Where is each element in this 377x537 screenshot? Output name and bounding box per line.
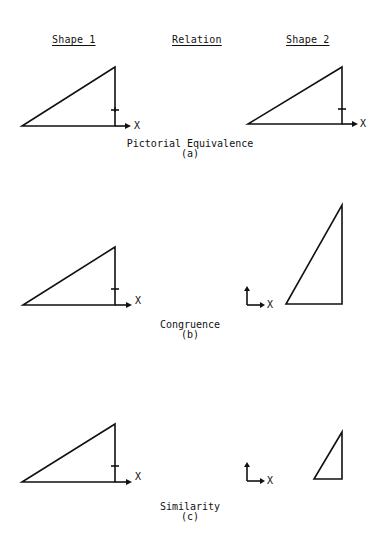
arrow-up-icon [244,462,250,467]
panel-c-shape-1-triangle [22,424,129,482]
axis-label-x: X [267,475,273,486]
panel-b-shape-1-triangle [23,247,129,305]
axis-label-x: X [267,299,273,310]
panel-tag: (b) [110,330,270,340]
arrow-up-icon [244,286,250,291]
axis-label-x: X [135,295,141,306]
diagram-canvas [0,0,377,537]
caption-panel-c: Similarity (c) [110,502,270,522]
arrow-head-icon [260,302,265,308]
arrow-head-icon [260,478,265,484]
panel-c-shape-2-triangle [314,432,342,479]
panel-c-axes [247,466,262,481]
panel-a-shape-1-triangle [22,67,128,126]
axis-label-x: X [135,471,141,482]
caption-panel-b: Congruence (b) [110,320,270,340]
panel-tag: (a) [110,149,270,159]
axis-label-x: X [134,120,140,131]
panel-a-shape-2-triangle [248,67,355,124]
caption-panel-a: Pictorial Equivalence (a) [110,139,270,159]
arrow-head-icon [126,302,132,308]
arrow-head-icon [126,479,132,485]
panel-b-shape-2-triangle [286,205,342,304]
arrow-head-icon [352,121,358,127]
arrow-head-icon [125,123,131,129]
axis-label-x: X [360,118,366,129]
panel-b-axes [247,290,262,305]
panel-tag: (c) [110,512,270,522]
